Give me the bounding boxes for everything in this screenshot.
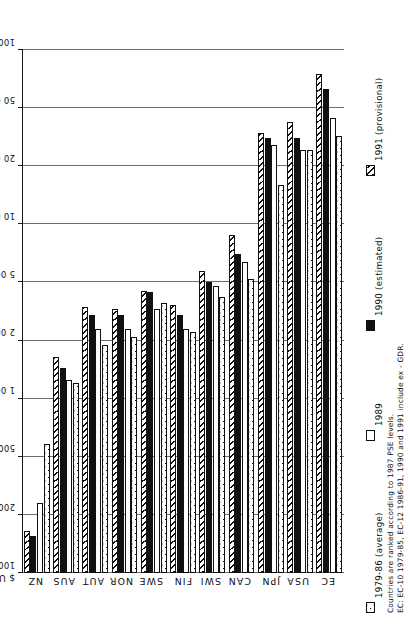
bar-usa-open <box>300 150 306 573</box>
x-axis-title: $ US mn (log scale) <box>0 573 15 583</box>
bar-swe-hatched <box>141 291 147 573</box>
axis-tick <box>18 107 23 108</box>
bar-jpn-solid <box>265 138 271 573</box>
x-axis-tick-label: 200 <box>0 502 15 512</box>
legend-swatch-solid <box>366 320 375 331</box>
bar-nor-hatched <box>112 309 118 573</box>
bar-swi-hatched <box>199 271 205 573</box>
x-axis-tick-label: 20 000 <box>0 153 15 163</box>
bar-swe-open <box>154 309 160 573</box>
bar-ec-dotted <box>336 136 342 573</box>
category-label-aus: AUS <box>52 576 75 587</box>
bar-jpn-open <box>271 145 277 573</box>
x-axis-tick-label: 500 <box>0 443 15 453</box>
legend-swatch-hatched <box>366 165 375 176</box>
plot-area <box>22 50 344 573</box>
bar-fin-solid <box>177 315 183 573</box>
x-axis-tick-label: 50 000 <box>0 95 15 105</box>
legend-label: 1991 (provisional) <box>374 78 384 161</box>
bar-aut-open <box>95 329 101 573</box>
footnote-2: EC: EC-10 1979-85, EC-12 1986-91, 1990 a… <box>396 343 405 613</box>
category-label-nz: NZ <box>27 576 43 587</box>
axis-tick <box>18 165 23 166</box>
rotated-figure-canvas: $ US mn (log scale) 100 00050 00020 0001… <box>0 0 410 631</box>
bar-can-dotted <box>248 279 254 573</box>
bar-fin-dotted <box>190 332 196 573</box>
x-axis-tick-label: 5 000 <box>0 269 15 279</box>
x-axis-tick-label: 1 000 <box>0 385 15 395</box>
legend-label: 1979-86 (average) <box>374 512 384 598</box>
category-label-aut: AUT <box>82 576 104 587</box>
footnote-1: Countries are ranked according to 1987 P… <box>386 414 395 613</box>
bar-usa-dotted <box>307 150 313 573</box>
x-axis-tick-label: 100 000 <box>0 37 15 47</box>
bar-nz-hatched <box>24 531 30 573</box>
bar-can-solid <box>235 254 241 573</box>
bar-jpn-dotted <box>278 185 284 573</box>
bar-ec-hatched <box>316 74 322 573</box>
bar-ec-solid <box>323 89 329 573</box>
axis-tick <box>18 223 23 224</box>
legend-swatch-open <box>366 430 375 441</box>
gridline <box>22 49 344 50</box>
bar-swe-solid <box>147 292 153 573</box>
axis-tick <box>18 281 23 282</box>
bar-nz-solid <box>30 536 36 573</box>
bar-aus-dotted <box>73 383 79 573</box>
legend-swatch-dotted <box>366 602 375 613</box>
category-label-fin: FIN <box>174 576 192 587</box>
bar-jpn-hatched <box>258 133 264 573</box>
x-axis-tick-label: 10 000 <box>0 211 15 221</box>
bar-usa-solid <box>294 138 300 573</box>
bar-nz-dotted <box>44 444 50 573</box>
gridline <box>22 107 344 108</box>
bar-swe-dotted <box>161 303 167 573</box>
bar-nor-open <box>125 329 131 573</box>
bar-nor-solid <box>118 315 124 573</box>
bar-swi-solid <box>206 282 212 573</box>
category-label-jpn: JPN <box>261 576 280 587</box>
bar-aut-solid <box>89 315 95 573</box>
bar-swi-open <box>213 286 219 573</box>
bar-aut-dotted <box>102 345 108 573</box>
x-axis-tick-label: 100 <box>0 560 15 570</box>
category-label-ec: EC <box>321 576 336 587</box>
axis-tick <box>18 49 23 50</box>
bar-aus-hatched <box>53 357 59 573</box>
bar-swi-dotted <box>219 297 225 573</box>
category-label-can: CAN <box>227 576 250 587</box>
top-axis-line <box>22 50 23 573</box>
axis-tick <box>18 514 23 515</box>
x-axis-tick-label: 2 000 <box>0 327 15 337</box>
bar-fin-open <box>183 329 189 573</box>
bar-aut-hatched <box>82 307 88 573</box>
category-label-swi: SWI <box>200 576 221 587</box>
category-label-swe: SWE <box>138 576 162 587</box>
legend-label: 1989 <box>374 403 384 426</box>
category-label-nor: NOR <box>109 576 133 587</box>
bar-nz-open <box>37 503 43 573</box>
bar-aus-open <box>66 380 72 573</box>
bar-can-hatched <box>229 235 235 573</box>
legend-label: 1990 (estimated) <box>374 237 384 316</box>
bar-ec-open <box>330 118 336 573</box>
bar-usa-hatched <box>287 122 293 573</box>
axis-tick <box>18 456 23 457</box>
axis-tick <box>18 340 23 341</box>
bar-aus-solid <box>60 368 66 573</box>
axis-tick <box>18 572 23 573</box>
bar-can-open <box>242 262 248 573</box>
category-label-usa: USA <box>286 576 309 587</box>
bar-nor-dotted <box>131 337 137 573</box>
axis-tick <box>18 398 23 399</box>
bar-fin-hatched <box>170 305 176 573</box>
